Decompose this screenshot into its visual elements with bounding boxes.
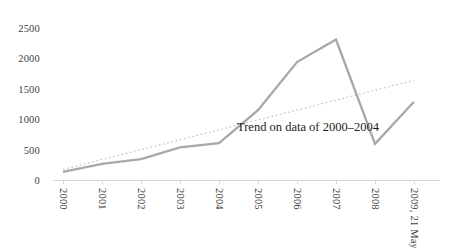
- x-tick-label: 2001: [96, 188, 108, 210]
- y-tick-label: 2000: [0, 53, 40, 65]
- x-tick-label: 2009, 21 May: [408, 188, 420, 248]
- trend-annotation: Trend on data of 2000–2004: [237, 120, 379, 134]
- x-tick-label: 2003: [174, 188, 186, 210]
- y-tick-label: 0: [0, 175, 40, 187]
- chart-canvas: [0, 0, 451, 248]
- x-tick-label: 2008: [369, 188, 381, 210]
- x-tick-label: 2002: [135, 188, 147, 210]
- x-tick-label: 2000: [57, 188, 69, 210]
- y-tick-label: 500: [0, 145, 40, 157]
- y-tick-label: 2500: [0, 23, 40, 35]
- x-tick-label: 2007: [330, 188, 342, 210]
- y-tick-label: 1000: [0, 114, 40, 126]
- y-tick-label: 1500: [0, 84, 40, 96]
- data-series-line: [63, 39, 414, 171]
- x-tick-label: 2004: [213, 188, 225, 210]
- x-tick-label: 2005: [252, 188, 264, 210]
- x-tick-label: 2006: [291, 188, 303, 210]
- chart-figure: 05001000150020002500 2000200120022003200…: [0, 0, 451, 248]
